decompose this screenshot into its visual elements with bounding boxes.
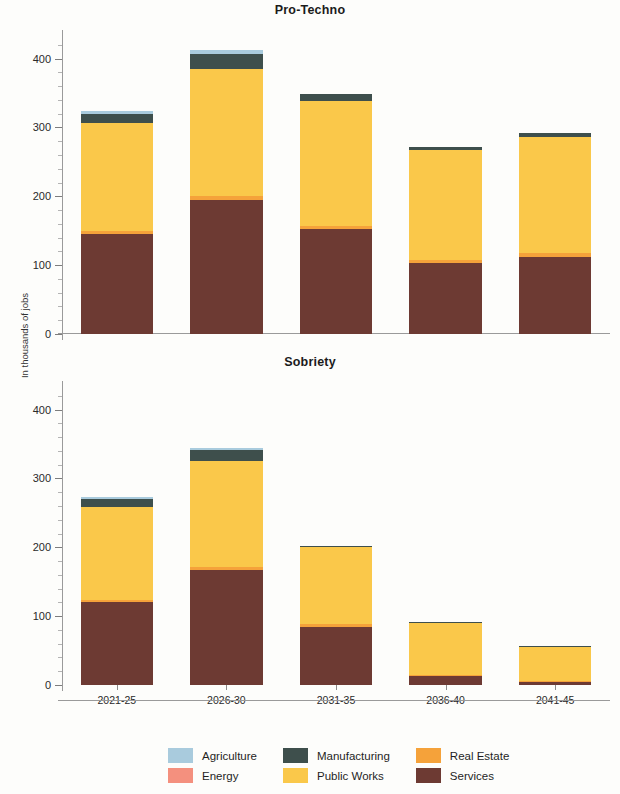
bar-segment-agriculture[interactable]	[190, 448, 262, 451]
y-tick-minor	[58, 238, 62, 239]
y-tick-minor	[58, 506, 62, 507]
bar-segment-public-works[interactable]	[300, 547, 372, 624]
bar-segment-services[interactable]	[300, 229, 372, 334]
bar-segment-manufacturing[interactable]	[190, 54, 262, 69]
y-tick-400	[55, 410, 62, 411]
y-tick-minor	[58, 224, 62, 225]
bar-segment-real-estate[interactable]	[190, 567, 262, 570]
y-tick-minor	[58, 320, 62, 321]
legend-item-energy[interactable]: Energy	[168, 768, 257, 783]
bar-segment-real-estate[interactable]	[519, 253, 591, 256]
bar-segment-manufacturing[interactable]	[81, 499, 153, 507]
bar-segment-manufacturing[interactable]	[409, 147, 481, 150]
y-axis-line-2	[62, 381, 63, 691]
bar-2031-35[interactable]	[300, 38, 372, 334]
bar-segment-real-estate[interactable]	[519, 681, 591, 682]
bar-segment-services[interactable]	[300, 627, 372, 686]
y-tick-minor	[58, 210, 62, 211]
bar-segment-manufacturing[interactable]	[190, 450, 262, 461]
y-tick-minor	[58, 306, 62, 307]
bar-segment-public-works[interactable]	[519, 647, 591, 681]
y-tick-minor	[58, 141, 62, 142]
legend-item-real-estate[interactable]: Real Estate	[416, 748, 509, 763]
bar-2041-45[interactable]	[519, 389, 591, 685]
legend-item-agriculture[interactable]: Agriculture	[168, 748, 257, 763]
bar-segment-agriculture[interactable]	[81, 111, 153, 114]
panel-title-pro-techno: Pro-Techno	[0, 3, 620, 17]
y-tick-minor	[58, 492, 62, 493]
bar-segment-services[interactable]	[81, 234, 153, 334]
bar-2036-40[interactable]	[409, 38, 481, 334]
bar-segment-services[interactable]	[519, 257, 591, 334]
y-tick-0	[55, 334, 62, 335]
y-tick-minor	[58, 575, 62, 576]
bar-segment-real-estate[interactable]	[190, 196, 262, 200]
bar-segment-real-estate[interactable]	[300, 226, 372, 229]
bar-segment-services[interactable]	[81, 602, 153, 685]
bar-segment-agriculture[interactable]	[190, 50, 262, 53]
legend-item-manufacturing[interactable]: Manufacturing	[283, 748, 390, 763]
bar-segment-manufacturing[interactable]	[519, 646, 591, 647]
y-tick-minor	[58, 534, 62, 535]
y-tick-minor	[58, 657, 62, 658]
y-tick-100	[55, 265, 62, 266]
bar-segment-real-estate[interactable]	[300, 624, 372, 626]
legend-item-label: Services	[450, 770, 494, 782]
bar-segment-public-works[interactable]	[300, 101, 372, 226]
bar-segment-manufacturing[interactable]	[300, 546, 372, 547]
legend-swatch-icon	[416, 748, 441, 763]
y-tick-300	[55, 478, 62, 479]
bar-segment-real-estate[interactable]	[409, 260, 481, 263]
bar-2021-25[interactable]	[81, 389, 153, 685]
legend-swatch-icon	[416, 768, 441, 783]
bar-segment-services[interactable]	[190, 570, 262, 685]
legend-swatch-icon	[168, 748, 193, 763]
x-tick-2026-30	[226, 685, 227, 690]
bar-segment-services[interactable]	[409, 676, 481, 685]
bar-segment-real-estate[interactable]	[81, 231, 153, 234]
bar-2036-40[interactable]	[409, 389, 481, 685]
bar-segment-public-works[interactable]	[190, 461, 262, 566]
bar-segment-public-works[interactable]	[81, 507, 153, 599]
bar-segment-services[interactable]	[409, 263, 481, 334]
legend-swatch-icon	[283, 768, 308, 783]
bar-2026-30[interactable]	[190, 38, 262, 334]
bar-segment-public-works[interactable]	[409, 622, 481, 675]
bar-segment-public-works[interactable]	[519, 137, 591, 253]
bar-segment-manufacturing[interactable]	[409, 622, 481, 623]
bar-segment-real-estate[interactable]	[81, 600, 153, 603]
bar-segment-agriculture[interactable]	[81, 497, 153, 499]
y-tick-200	[55, 196, 62, 197]
bar-segment-public-works[interactable]	[190, 69, 262, 196]
bar-segment-services[interactable]	[190, 200, 262, 334]
y-tick-minor	[58, 114, 62, 115]
y-tick-minor	[58, 630, 62, 631]
legend-item-services[interactable]: Services	[416, 768, 509, 783]
y-tick-100	[55, 616, 62, 617]
legend-swatch-icon	[168, 768, 193, 783]
bar-2026-30[interactable]	[190, 389, 262, 685]
bar-segment-manufacturing[interactable]	[519, 133, 591, 137]
legend-item-label: Energy	[202, 770, 238, 782]
y-tick-label-300: 300	[33, 121, 51, 133]
y-tick-minor	[58, 561, 62, 562]
y-tick-minor	[58, 451, 62, 452]
bar-2021-25[interactable]	[81, 38, 153, 334]
bar-segment-manufacturing[interactable]	[81, 114, 153, 123]
bar-segment-public-works[interactable]	[409, 150, 481, 261]
legend-item-label: Public Works	[317, 770, 384, 782]
bar-2041-45[interactable]	[519, 38, 591, 334]
y-tick-minor	[58, 86, 62, 87]
bar-segment-public-works[interactable]	[81, 123, 153, 231]
chart-legend: AgricultureEnergyManufacturingPublic Wor…	[168, 748, 509, 783]
y-tick-minor	[58, 183, 62, 184]
bar-segment-real-estate[interactable]	[409, 675, 481, 676]
bar-segment-manufacturing[interactable]	[300, 94, 372, 101]
y-tick-minor	[58, 589, 62, 590]
y-tick-minor	[58, 396, 62, 397]
y-axis-label: In thousands of jobs	[19, 266, 30, 406]
y-tick-label-300: 300	[33, 472, 51, 484]
legend-item-public-works[interactable]: Public Works	[283, 768, 390, 783]
bar-2031-35[interactable]	[300, 389, 372, 685]
y-tick-minor	[58, 169, 62, 170]
